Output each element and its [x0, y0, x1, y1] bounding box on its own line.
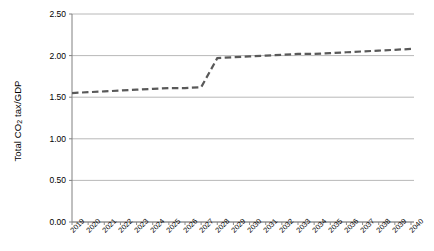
plot-area [0, 0, 434, 251]
chart-container: Total CO2 tax/GDP 0.000.501.001.502.002.… [0, 0, 434, 251]
gridlines [69, 14, 414, 222]
